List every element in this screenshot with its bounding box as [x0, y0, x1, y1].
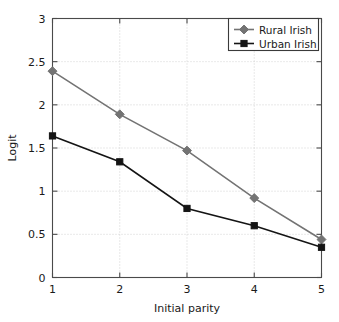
y-tick-label: 0.5: [28, 228, 46, 241]
data-point-marker: [251, 223, 257, 229]
x-tick-label: 3: [184, 283, 191, 296]
x-tick-label: 4: [251, 283, 258, 296]
data-point-marker: [49, 133, 55, 139]
y-tick-label: 2: [39, 99, 46, 112]
data-point-marker: [184, 205, 190, 211]
chart-figure: 12345 00.511.522.53 Initial parity Logit…: [0, 0, 339, 322]
data-point-marker: [317, 235, 326, 244]
y-tick-label: 3: [39, 13, 46, 26]
y-tick-label: 1: [39, 185, 46, 198]
legend-marker-square-icon: [241, 40, 247, 46]
data-point-marker: [48, 67, 57, 76]
x-tick-label: 5: [318, 283, 325, 296]
legend-label: Rural Irish: [259, 24, 312, 36]
line-chart-canvas: 12345 00.511.522.53 Initial parity Logit…: [0, 0, 339, 322]
legend-label: Urban Irish: [259, 38, 317, 50]
y-axis-title: Logit: [6, 134, 19, 162]
x-tick-label: 1: [49, 283, 56, 296]
x-axis-title: Initial parity: [154, 302, 221, 315]
chart-legend: Rural IrishUrban Irish: [229, 19, 319, 51]
data-point-marker: [318, 244, 324, 250]
data-point-marker: [115, 110, 124, 119]
y-axis-tick-labels: 00.511.522.53: [28, 13, 46, 285]
x-tick-label: 2: [116, 283, 123, 296]
x-axis-tick-labels: 12345: [49, 283, 325, 296]
y-tick-label: 1.5: [28, 142, 46, 155]
data-point-marker: [117, 159, 123, 165]
y-tick-label: 2.5: [28, 56, 46, 69]
y-tick-label: 0: [39, 272, 46, 285]
